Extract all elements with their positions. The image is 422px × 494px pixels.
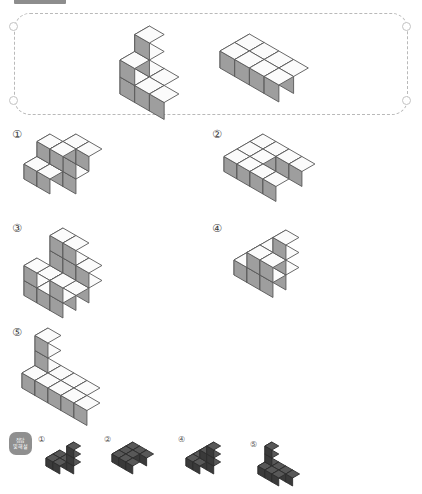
prompt-figure-right bbox=[218, 32, 310, 104]
prompt-figure-left bbox=[118, 24, 181, 122]
option-4-number: ④ bbox=[212, 222, 222, 236]
answer-thumb-4-figure bbox=[184, 440, 223, 476]
option-4-figure[interactable] bbox=[232, 228, 301, 300]
answer-thumb-1-figure bbox=[44, 440, 83, 476]
answer-key-badge-line2: 및해설 bbox=[9, 443, 32, 449]
option-1-number: ① bbox=[12, 128, 22, 142]
answer-thumb-2-figure bbox=[110, 440, 156, 476]
frame-corner-hole-top-left bbox=[9, 22, 18, 31]
option-3-number: ③ bbox=[12, 222, 22, 236]
option-3-figure[interactable] bbox=[22, 226, 104, 320]
frame-corner-hole-bottom-left bbox=[9, 96, 18, 105]
option-1-figure[interactable] bbox=[22, 132, 104, 196]
worksheet-page: ① ② ③ ④ ⑤ 정답 및해설 ① ② ④ ⑤ bbox=[0, 0, 422, 494]
option-2-figure[interactable] bbox=[222, 132, 317, 204]
option-5-figure[interactable] bbox=[20, 326, 102, 428]
frame-corner-hole-top-right bbox=[402, 22, 411, 31]
prompt-figures-frame bbox=[14, 13, 408, 115]
header-bar bbox=[14, 0, 66, 4]
frame-corner-hole-bottom-right bbox=[402, 96, 411, 105]
answer-key-badge: 정답 및해설 bbox=[9, 432, 32, 455]
option-2-number: ② bbox=[212, 128, 222, 142]
answer-thumb-5-figure bbox=[256, 440, 302, 488]
